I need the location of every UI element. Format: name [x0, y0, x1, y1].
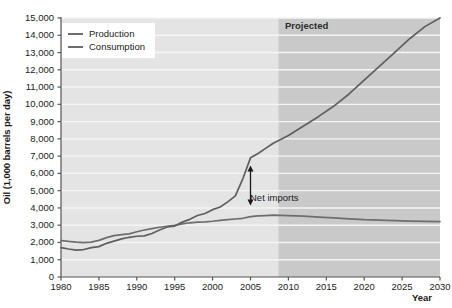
- legend-swatch-consumption: [68, 46, 83, 48]
- x-axis-tick-label: 2000: [193, 281, 233, 292]
- legend-swatch-production: [68, 33, 83, 35]
- x-axis-tick-label: 1985: [79, 281, 119, 292]
- x-axis-tick-label: 1980: [41, 281, 81, 292]
- x-axis-tick-label: 1990: [117, 281, 157, 292]
- x-axis-tick-label: 2025: [382, 281, 422, 292]
- x-axis-tick-label: 2015: [306, 281, 346, 292]
- projected-region-band: [279, 18, 440, 277]
- x-axis-tick-label: 1995: [155, 281, 195, 292]
- x-axis-tick-label: 2005: [231, 281, 271, 292]
- projected-region-label: Projected: [285, 20, 328, 31]
- x-axis-tick-label: 2030: [420, 281, 452, 292]
- legend-label-consumption: Consumption: [89, 40, 145, 53]
- x-axis-tick-label: 2020: [344, 281, 384, 292]
- net-imports-label: Net imports: [250, 192, 299, 203]
- x-axis-tick-label: 2010: [268, 281, 308, 292]
- legend-item-consumption: Consumption: [68, 40, 145, 53]
- legend-item-production: Production: [68, 27, 145, 40]
- chart-legend: Production Consumption: [62, 23, 155, 58]
- oil-production-consumption-chart: 01,0002,0003,0004,0005,0006,0007,0008,00…: [0, 0, 452, 308]
- legend-label-production: Production: [89, 27, 134, 40]
